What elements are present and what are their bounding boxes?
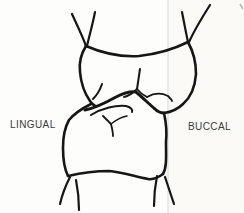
lower-root-right-inner <box>154 176 157 206</box>
upper-lingual-cusp-line <box>93 84 102 99</box>
lower-buccal-side <box>163 113 166 174</box>
lower-ridge-right-arm <box>111 116 127 124</box>
occlusion-diagram <box>0 0 244 213</box>
lower-lingual-side <box>63 104 91 176</box>
lower-root-left-inner <box>76 180 79 210</box>
lower-cervical-bottom <box>68 171 163 179</box>
lower-ridge-left-arm <box>103 116 111 124</box>
upper-root-left-outer <box>72 14 86 46</box>
diagram-canvas: LINGUAL BUCCAL <box>0 0 244 213</box>
lingual-label: LINGUAL <box>10 120 56 130</box>
upper-root-left-inner <box>87 12 95 46</box>
upper-lingual-side <box>80 46 95 106</box>
upper-central-groove <box>137 69 140 89</box>
buccal-label: BUCCAL <box>188 122 231 132</box>
lower-ridge-stem <box>111 124 113 136</box>
lower-root-left-outer <box>60 177 70 204</box>
